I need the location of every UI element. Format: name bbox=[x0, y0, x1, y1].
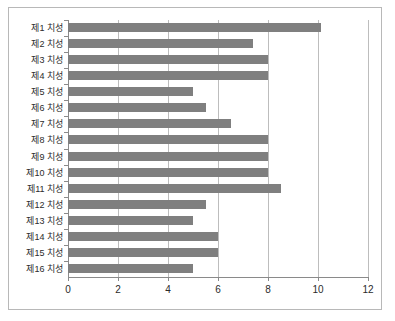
bar-row bbox=[68, 116, 368, 132]
bar-2 bbox=[68, 39, 253, 48]
y-tick-7 bbox=[64, 116, 68, 117]
y-axis-label-8: 제8 치성 bbox=[31, 135, 63, 145]
bar-row bbox=[68, 261, 368, 277]
y-axis-label-12: 제12 치성 bbox=[26, 200, 63, 210]
y-axis-label-9: 제9 치성 bbox=[31, 152, 63, 162]
x-tick-label-10: 10 bbox=[303, 284, 333, 296]
y-tick-13 bbox=[64, 213, 68, 214]
y-axis-label-7: 제7 치성 bbox=[31, 119, 63, 129]
y-axis-label-3: 제3 치성 bbox=[31, 55, 63, 65]
bar-3 bbox=[68, 55, 268, 64]
y-axis-label-15: 제15 치성 bbox=[26, 248, 63, 258]
x-tick-2 bbox=[118, 277, 119, 281]
y-axis-label-13: 제13 치성 bbox=[26, 216, 63, 226]
bar-row bbox=[68, 20, 368, 36]
y-tick-5 bbox=[64, 84, 68, 85]
bar-row bbox=[68, 213, 368, 229]
bar-4 bbox=[68, 71, 268, 80]
x-tick-label-0: 0 bbox=[53, 284, 83, 296]
y-axis-label-4: 제4 치성 bbox=[31, 71, 63, 81]
bar-5 bbox=[68, 87, 193, 96]
y-axis-label-1: 제1 치성 bbox=[31, 23, 63, 33]
bar-10 bbox=[68, 168, 268, 177]
y-tick-8 bbox=[64, 132, 68, 133]
x-tick-12 bbox=[368, 277, 369, 281]
y-axis-label-2: 제2 치성 bbox=[31, 39, 63, 49]
y-tick-16 bbox=[64, 261, 68, 262]
x-tick-10 bbox=[318, 277, 319, 281]
bar-row bbox=[68, 132, 368, 148]
x-tick-8 bbox=[268, 277, 269, 281]
y-tick-4 bbox=[64, 68, 68, 69]
bar-11 bbox=[68, 184, 281, 193]
x-tick-0 bbox=[68, 277, 69, 281]
x-tick-6 bbox=[218, 277, 219, 281]
bar-row bbox=[68, 197, 368, 213]
bar-row bbox=[68, 229, 368, 245]
y-axis-label-10: 제10 치성 bbox=[26, 168, 63, 178]
bar-row bbox=[68, 68, 368, 84]
x-tick-label-2: 2 bbox=[103, 284, 133, 296]
y-axis-label-6: 제6 치성 bbox=[31, 103, 63, 113]
plot-area bbox=[68, 20, 368, 277]
bar-14 bbox=[68, 232, 218, 241]
bar-7 bbox=[68, 119, 231, 128]
bar-chart-figure: 제1 치성제2 치성제3 치성제4 치성제5 치성제6 치성제7 치성제8 치성… bbox=[0, 0, 395, 321]
x-tick-label-12: 12 bbox=[353, 284, 383, 296]
y-tick-12 bbox=[64, 197, 68, 198]
y-tick-3 bbox=[64, 52, 68, 53]
y-tick-10 bbox=[64, 165, 68, 166]
gridline-x-12 bbox=[368, 20, 369, 277]
bar-16 bbox=[68, 264, 193, 273]
bar-15 bbox=[68, 248, 218, 257]
x-tick-label-4: 4 bbox=[153, 284, 183, 296]
y-axis-label-11: 제11 치성 bbox=[27, 184, 63, 194]
y-tick-15 bbox=[64, 245, 68, 246]
y-tick-6 bbox=[64, 100, 68, 101]
bar-row bbox=[68, 149, 368, 165]
bar-row bbox=[68, 52, 368, 68]
y-axis-label-16: 제16 치성 bbox=[26, 264, 63, 274]
x-tick-label-8: 8 bbox=[253, 284, 283, 296]
y-tick-9 bbox=[64, 149, 68, 150]
bar-row bbox=[68, 36, 368, 52]
bar-row bbox=[68, 181, 368, 197]
y-tick-11 bbox=[64, 181, 68, 182]
bar-13 bbox=[68, 216, 193, 225]
y-tick-2 bbox=[64, 36, 68, 37]
bar-row bbox=[68, 165, 368, 181]
y-axis-label-5: 제5 치성 bbox=[31, 87, 63, 97]
y-axis-label-14: 제14 치성 bbox=[26, 232, 63, 242]
x-tick-4 bbox=[168, 277, 169, 281]
bar-1 bbox=[68, 23, 321, 32]
bar-row bbox=[68, 245, 368, 261]
y-tick-1 bbox=[64, 20, 68, 21]
bar-row bbox=[68, 84, 368, 100]
y-tick-14 bbox=[64, 229, 68, 230]
bar-8 bbox=[68, 135, 268, 144]
bar-row bbox=[68, 100, 368, 116]
x-tick-label-6: 6 bbox=[203, 284, 233, 296]
bar-12 bbox=[68, 200, 206, 209]
bar-6 bbox=[68, 103, 206, 112]
bar-9 bbox=[68, 152, 268, 161]
